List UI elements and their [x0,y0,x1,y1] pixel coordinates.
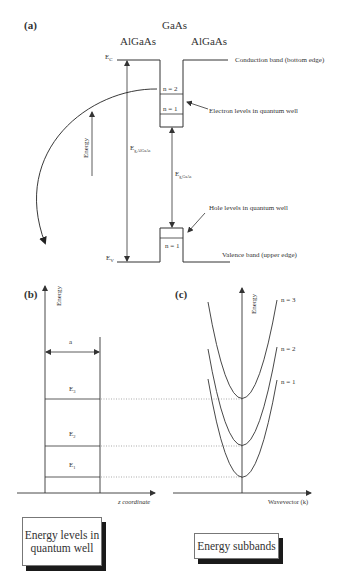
subband-n1-curve [208,379,277,477]
wavevector-label: Wavevector (k) [268,498,308,506]
subband-n3-curve [208,300,277,399]
panel-b-label: (b) [24,288,38,301]
panel-c-label: (c) [175,288,188,301]
algaas-bandgap-label: Eg,AlGaAs [130,144,151,154]
material-algaas-left-label: AlGaAs [120,35,156,47]
level-e2-label: E2 [69,430,76,439]
electron-n1-label: n = 1 [163,105,178,113]
material-gaas-label: GaAs [162,19,187,31]
energy-levels-caption: Energy levels in quantum well [23,529,101,555]
hole-levels-label: Hole levels in quantum well [209,204,288,212]
hole-levels-pointer-arrow [188,213,205,232]
ec-label: EC [105,53,113,62]
subband-n3-label: n = 3 [281,296,296,304]
hole-n1-label: n = 1 [165,242,180,250]
quantum-well-diagram: (a) GaAs AlGaAs AlGaAs n = 2 n = 1 EC Co… [0,0,350,580]
conduction-band-label: Conduction band (bottom edge) [235,56,325,64]
energy-subbands-caption: Energy subbands [197,540,276,552]
energy-subbands-caption-box: Energy subbands [194,533,279,559]
ev-label: EV [106,254,114,263]
panel-c-energy-label: Energy [250,293,258,314]
subband-n1-label: n = 1 [281,378,296,386]
electron-levels-label: Electron levels in quantum well [209,107,298,115]
curved-transition-arrow [36,89,157,243]
energy-axis-label: Energy [82,137,90,158]
energy-levels-caption-box: Energy levels in quantum well [22,517,102,566]
well-width-label: a [69,338,73,346]
panel-c: (c) Energy Wavevector (k) n = 3 n = 2 n … [173,288,311,506]
material-algaas-right-label: AlGaAs [191,35,227,47]
panel-a: (a) GaAs AlGaAs AlGaAs n = 2 n = 1 EC Co… [24,19,325,263]
valence-band-label: Valence band (upper edge) [222,251,297,259]
level-e1-label: E1 [69,461,76,470]
electron-n2-label: n = 2 [163,85,178,93]
gaas-bandgap-label: Eg,GaAs [175,170,192,180]
panel-b: (b) Energy z coordinate a E3 E2 E1 [17,285,242,505]
z-coordinate-label: z coordinate [117,498,150,505]
panel-a-label: (a) [24,19,37,32]
electron-levels-pointer-arrow [187,102,208,109]
conduction-band-profile [117,60,228,127]
panel-b-energy-label: Energy [55,285,63,306]
subband-n2-label: n = 2 [281,345,296,353]
level-e3-label: E3 [69,385,76,394]
